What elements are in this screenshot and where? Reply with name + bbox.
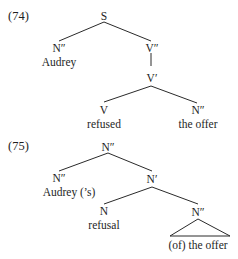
node-object-word: the offer <box>178 118 217 130</box>
node-subject-word: Audrey <box>42 56 77 68</box>
node-verb-category: V <box>100 104 108 116</box>
branch-s-to-n <box>59 22 104 41</box>
node-v-bar: V′ <box>147 72 158 84</box>
triangle-icon <box>170 219 230 236</box>
node-specifier-category: N″ <box>52 172 65 184</box>
example-number: (75) <box>8 140 29 153</box>
branch-vbar-to-v <box>104 86 151 102</box>
branch-root-to-nbar <box>108 153 152 171</box>
branch-nbar-to-comp <box>152 187 198 204</box>
node-complement-word: (of) the offer <box>168 239 227 251</box>
node-specifier-word: Audrey (’s) <box>43 186 96 198</box>
node-complement-category: N″ <box>191 206 204 218</box>
node-head-category: N <box>100 205 108 217</box>
node-subject-category: N″ <box>52 42 65 54</box>
node-root: N″ <box>101 141 114 153</box>
node-n-bar: N′ <box>147 173 158 185</box>
node-s: S <box>101 10 107 22</box>
branch-s-to-vmax <box>104 22 151 41</box>
branch-vbar-to-n <box>151 86 197 103</box>
branch-root-to-spec <box>59 153 108 171</box>
branch-nbar-to-n <box>104 187 152 204</box>
node-object-category: N″ <box>191 104 204 116</box>
node-head-word: refusal <box>88 219 119 231</box>
node-v-double-bar: V″ <box>145 42 158 54</box>
node-verb-word: refused <box>87 118 121 130</box>
example-number: (74) <box>8 10 29 23</box>
